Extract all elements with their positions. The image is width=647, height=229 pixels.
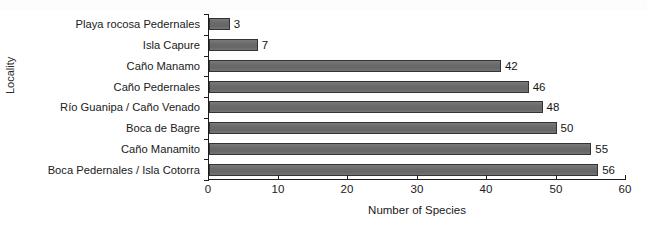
bar-value-label: 56 bbox=[602, 163, 615, 177]
x-axis-tick bbox=[278, 175, 279, 180]
bar bbox=[209, 101, 543, 113]
bar-value-label: 42 bbox=[505, 59, 518, 73]
bar-value-label: 3 bbox=[234, 17, 240, 31]
x-axis-title: Number of Species bbox=[208, 204, 626, 216]
x-axis-tick bbox=[556, 175, 557, 180]
x-axis-tick bbox=[486, 175, 487, 180]
y-axis-tick-label: Caño Manamito bbox=[121, 142, 200, 156]
y-axis-tick-label: Caño Manamo bbox=[127, 59, 200, 73]
x-axis-tick-label: 0 bbox=[205, 182, 211, 196]
y-axis-title: Locality bbox=[4, 78, 16, 94]
plot-area: 37424648505556 bbox=[208, 14, 625, 180]
y-axis-tick bbox=[204, 35, 209, 36]
y-axis-tick-label: Río Guanipa / Caño Venado bbox=[60, 100, 200, 114]
bar bbox=[209, 60, 501, 72]
y-axis-tick bbox=[204, 118, 209, 119]
y-axis-tick bbox=[204, 159, 209, 160]
x-axis-tick-label: 50 bbox=[550, 182, 563, 196]
x-axis-tick-label: 40 bbox=[480, 182, 493, 196]
y-axis-tick-label: Isla Capure bbox=[143, 38, 200, 52]
y-axis-tick-label: Boca de Bagre bbox=[126, 121, 200, 135]
bar-value-label: 48 bbox=[547, 100, 560, 114]
y-axis-tick-labels: Playa rocosa PedernalesIsla CapureCaño M… bbox=[22, 14, 204, 180]
y-axis-tick-label: Caño Pedernales bbox=[114, 80, 200, 94]
bar-value-label: 50 bbox=[561, 121, 574, 135]
y-axis-tick bbox=[204, 139, 209, 140]
x-axis-tick-label: 10 bbox=[272, 182, 285, 196]
bar bbox=[209, 39, 258, 51]
bar bbox=[209, 122, 557, 134]
bar bbox=[209, 143, 591, 155]
x-axis-tick-label: 60 bbox=[619, 182, 632, 196]
y-axis-tick bbox=[204, 97, 209, 98]
scan-artifact-band bbox=[0, 0, 647, 10]
bar bbox=[209, 164, 598, 176]
bar bbox=[209, 81, 529, 93]
species-by-locality-bar-chart: Locality Playa rocosa PedernalesIsla Cap… bbox=[0, 0, 647, 229]
x-axis-tick-label: 20 bbox=[341, 182, 354, 196]
x-axis-tick-label: 30 bbox=[411, 182, 424, 196]
x-axis-tick bbox=[208, 175, 209, 180]
x-axis-tick-labels: 0102030405060 bbox=[208, 182, 638, 198]
x-axis-tick bbox=[625, 175, 626, 180]
y-axis-tick-label: Playa rocosa Pedernales bbox=[76, 17, 200, 31]
y-axis-tick bbox=[204, 76, 209, 77]
y-axis-tick bbox=[204, 56, 209, 57]
y-axis-tick bbox=[204, 14, 209, 15]
bar-value-label: 7 bbox=[262, 38, 268, 52]
bar-value-label: 55 bbox=[595, 142, 608, 156]
x-axis-tick bbox=[347, 175, 348, 180]
y-axis-tick-label: Boca Pedernales / Isla Cotorra bbox=[48, 163, 200, 177]
bar-value-label: 46 bbox=[533, 80, 546, 94]
x-axis-tick bbox=[417, 175, 418, 180]
y-axis-tick bbox=[204, 180, 209, 181]
bar bbox=[209, 18, 230, 30]
